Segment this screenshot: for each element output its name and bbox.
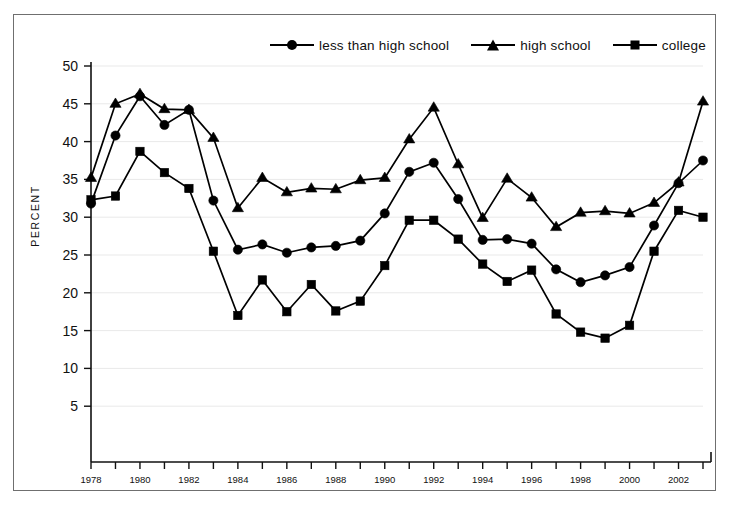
- x-tick-label: 2000: [619, 474, 640, 485]
- data-point-circle: [307, 243, 316, 252]
- data-point-circle: [282, 248, 291, 257]
- x-tick-label: 1984: [227, 474, 248, 485]
- y-tick-label: 45: [62, 96, 78, 112]
- data-point-circle: [160, 120, 169, 129]
- data-point-square: [87, 196, 95, 204]
- data-point-square: [552, 310, 560, 318]
- series-high-school: [85, 88, 708, 230]
- data-point-circle: [552, 265, 561, 274]
- data-point-triangle: [159, 103, 170, 112]
- data-point-triangle: [428, 102, 439, 111]
- data-point-triangle: [85, 172, 96, 181]
- x-tick-label: 1986: [276, 474, 297, 485]
- axes: [84, 62, 711, 469]
- data-point-square: [454, 235, 462, 243]
- y-tick-label: 50: [62, 58, 78, 74]
- plot-area-wrapper: PERCENT 5101520253035404550 197819801982…: [13, 14, 716, 491]
- data-point-circle: [454, 194, 463, 203]
- x-tick-label: 1996: [521, 474, 542, 485]
- data-point-circle: [625, 262, 634, 271]
- data-point-square: [332, 307, 340, 315]
- line-chart: 5101520253035404550 19781980198219841986…: [13, 14, 716, 491]
- data-point-circle: [429, 158, 438, 167]
- data-series: [85, 88, 708, 342]
- data-point-circle: [698, 156, 707, 165]
- series-line: [91, 96, 703, 282]
- data-point-triangle: [379, 172, 390, 181]
- data-point-square: [478, 260, 486, 268]
- data-point-square: [650, 247, 658, 255]
- data-point-circle: [600, 271, 609, 280]
- x-tick-label: 1978: [80, 474, 101, 485]
- data-point-square: [576, 328, 584, 336]
- gridlines: [91, 66, 703, 406]
- data-point-triangle: [526, 192, 537, 201]
- y-tick-label: 15: [62, 323, 78, 339]
- series-college: [87, 147, 707, 342]
- data-point-circle: [478, 235, 487, 244]
- x-tick-label: 1994: [472, 474, 493, 485]
- data-point-circle: [331, 241, 340, 250]
- y-tick-label: 40: [62, 134, 78, 150]
- x-tick-label: 1992: [423, 474, 444, 485]
- figure: less than high school high school colleg…: [0, 0, 733, 524]
- data-point-triangle: [697, 96, 708, 105]
- data-point-square: [381, 261, 389, 269]
- data-point-square: [283, 308, 291, 316]
- data-point-square: [405, 216, 413, 224]
- x-tick-labels: 1978198019821984198619881990199219941996…: [80, 474, 689, 485]
- data-point-square: [356, 297, 364, 305]
- data-point-square: [258, 276, 266, 284]
- x-tick-label: 1980: [129, 474, 150, 485]
- x-tick-label: 1998: [570, 474, 591, 485]
- data-point-circle: [527, 239, 536, 248]
- data-point-square: [503, 277, 511, 285]
- data-point-triangle: [575, 207, 586, 216]
- x-tick-label: 2002: [668, 474, 689, 485]
- y-tick-label: 5: [70, 398, 78, 414]
- y-tick-labels: 5101520253035404550: [62, 58, 78, 414]
- data-point-square: [601, 334, 609, 342]
- data-point-square: [625, 321, 633, 329]
- data-point-square: [699, 213, 707, 221]
- data-point-circle: [233, 245, 242, 254]
- data-point-triangle: [134, 88, 145, 97]
- data-point-triangle: [453, 158, 464, 167]
- data-point-circle: [576, 278, 585, 287]
- data-point-square: [430, 216, 438, 224]
- y-tick-label: 20: [62, 285, 78, 301]
- data-point-square: [160, 168, 168, 176]
- series-less-than-high-school: [86, 92, 707, 287]
- y-tick-label: 25: [62, 247, 78, 263]
- data-point-circle: [405, 167, 414, 176]
- y-tick-label: 10: [62, 360, 78, 376]
- y-tick-label: 30: [62, 209, 78, 225]
- x-tick-label: 1990: [374, 474, 395, 485]
- data-point-triangle: [257, 172, 268, 181]
- data-point-circle: [111, 131, 120, 140]
- data-point-square: [307, 280, 315, 288]
- data-point-square: [527, 266, 535, 274]
- x-tick-label: 1988: [325, 474, 346, 485]
- y-tick-label: 35: [62, 171, 78, 187]
- data-point-circle: [356, 236, 365, 245]
- data-point-square: [111, 192, 119, 200]
- data-point-square: [234, 311, 242, 319]
- data-point-square: [136, 147, 144, 155]
- data-point-square: [674, 206, 682, 214]
- data-point-circle: [380, 209, 389, 218]
- data-point-triangle: [306, 183, 317, 192]
- data-point-triangle: [502, 173, 513, 182]
- data-point-circle: [649, 221, 658, 230]
- data-point-square: [185, 184, 193, 192]
- data-point-triangle: [599, 205, 610, 214]
- data-point-square: [209, 247, 217, 255]
- data-point-circle: [258, 240, 267, 249]
- x-tick-label: 1982: [178, 474, 199, 485]
- data-point-circle: [209, 196, 218, 205]
- data-point-circle: [503, 235, 512, 244]
- data-point-triangle: [648, 197, 659, 206]
